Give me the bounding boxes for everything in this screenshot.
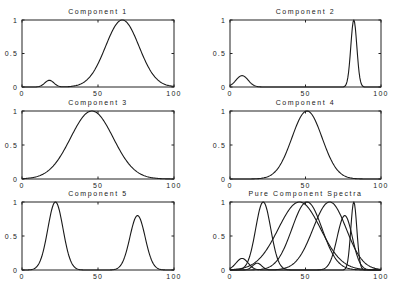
y-tick-label: 0.5: [213, 233, 226, 240]
subplot-5: Component 500.51050100: [5, 190, 182, 280]
curves: [22, 202, 174, 270]
subplot-1: Component 100.51050100: [5, 8, 182, 97]
figure: Component 100.51050100Component 200.5105…: [0, 0, 394, 287]
y-tick-label: 0: [13, 176, 18, 183]
y-tick-label: 0.5: [5, 142, 18, 149]
x-tick-label: 0: [19, 182, 24, 189]
curves: [230, 20, 381, 87]
y-tick-label: 0.5: [213, 50, 226, 57]
y-tick-label: 1: [221, 108, 226, 115]
subplot-title: Component 1: [68, 8, 128, 16]
axes-frame: [22, 111, 174, 179]
subplot-grid: Component 100.51050100Component 200.5105…: [0, 0, 394, 287]
subplot-4: Component 400.51050100: [213, 99, 389, 189]
subplot-title: Component 2: [276, 8, 336, 16]
subplot-title: Pure Component Spectra: [248, 190, 362, 198]
y-tick-label: 0: [221, 84, 226, 91]
subplot-3: Component 300.51050100: [5, 99, 182, 189]
subplot-6: Pure Component Spectra00.51050100: [213, 190, 389, 280]
x-tick-label: 100: [166, 90, 181, 97]
x-tick-label: 100: [166, 273, 181, 280]
y-tick-label: 1: [13, 108, 18, 115]
subplot-title: Component 3: [68, 99, 128, 107]
y-tick-label: 1: [221, 199, 226, 206]
x-tick-label: 50: [300, 182, 310, 189]
y-tick-label: 1: [13, 17, 18, 24]
x-tick-label: 0: [227, 90, 232, 97]
x-tick-label: 50: [93, 273, 103, 280]
curves: [22, 111, 174, 179]
y-tick-label: 0: [13, 267, 18, 274]
curve-component-4: [230, 111, 381, 179]
subplot-title: Component 4: [276, 99, 336, 107]
subplot-2: Component 200.51050100: [213, 8, 389, 97]
axes-frame: [22, 20, 174, 87]
curves: [230, 202, 381, 270]
x-tick-label: 50: [300, 90, 310, 97]
curve-component-1: [22, 20, 174, 87]
curve-component-5: [22, 202, 174, 270]
x-tick-label: 100: [373, 273, 388, 280]
axes-frame: [230, 111, 381, 179]
curves: [230, 111, 381, 179]
y-tick-label: 0.5: [5, 233, 18, 240]
y-tick-label: 0: [221, 176, 226, 183]
y-tick-label: 1: [13, 199, 18, 206]
x-tick-label: 100: [166, 182, 181, 189]
x-tick-label: 50: [300, 273, 310, 280]
x-tick-label: 0: [227, 273, 232, 280]
y-tick-label: 0: [13, 84, 18, 91]
y-tick-label: 0: [221, 267, 226, 274]
y-tick-label: 0.5: [5, 50, 18, 57]
curve-component-3: [22, 111, 174, 179]
y-tick-label: 1: [221, 17, 226, 24]
curve-component-5: [230, 202, 381, 270]
x-tick-label: 50: [93, 182, 103, 189]
x-tick-label: 0: [19, 273, 24, 280]
x-tick-label: 0: [227, 182, 232, 189]
x-tick-label: 0: [19, 90, 24, 97]
curves: [22, 20, 174, 87]
curve-component-2: [230, 20, 381, 87]
subplot-title: Component 5: [68, 190, 128, 198]
x-tick-label: 50: [93, 90, 103, 97]
y-tick-label: 0.5: [213, 142, 226, 149]
x-tick-label: 100: [373, 90, 388, 97]
axes-frame: [230, 20, 381, 87]
x-tick-label: 100: [373, 182, 388, 189]
